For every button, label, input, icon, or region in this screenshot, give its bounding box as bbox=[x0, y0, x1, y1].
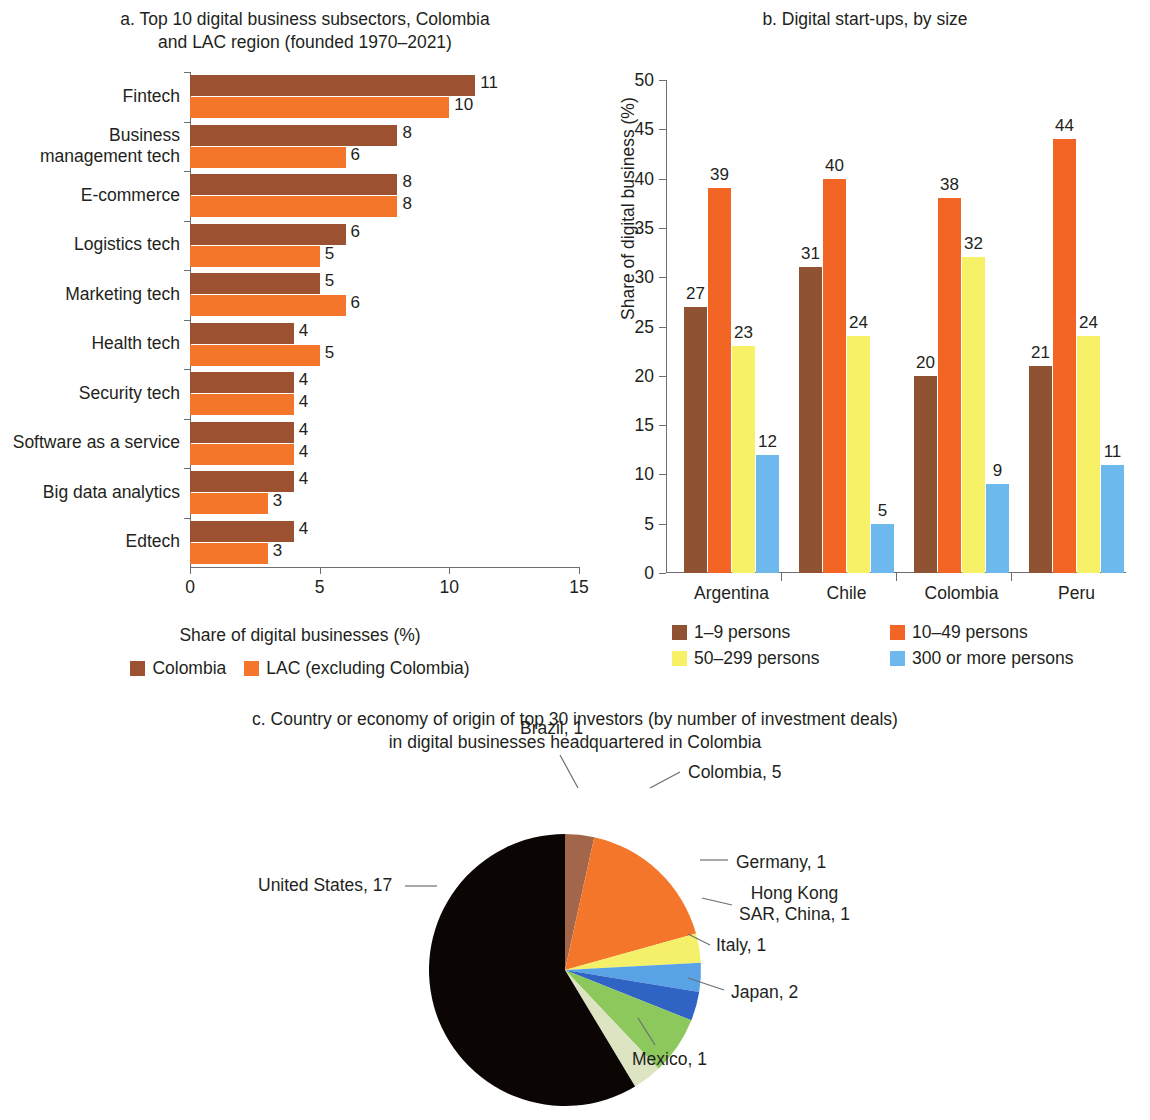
panel-a-legend-label: LAC (excluding Colombia) bbox=[266, 658, 469, 678]
panel-b-value-label: 5 bbox=[863, 501, 903, 521]
panel-a-bar-lac bbox=[190, 345, 320, 366]
panel-b-bar bbox=[962, 257, 985, 573]
panel-a-x-tick-label: 5 bbox=[315, 577, 325, 598]
panel-c-slice-label-group: Japan, 2 bbox=[731, 982, 798, 1003]
panel-a-value-label: 4 bbox=[299, 370, 308, 390]
panel-a-y-tick bbox=[184, 171, 190, 172]
panel-a-category-label: Fintech bbox=[0, 86, 180, 106]
panel-a-x-tick bbox=[449, 567, 450, 574]
panel-c-slice-label-group: Italy, 1 bbox=[716, 935, 766, 956]
panel-a-y-tick bbox=[184, 468, 190, 469]
panel-b-group-separator bbox=[896, 573, 897, 581]
panel-a-y-tick bbox=[184, 122, 190, 123]
panel-b-bar bbox=[914, 376, 937, 573]
panel-a-category-label-group: Businessmanagement tech bbox=[0, 125, 180, 166]
legend-swatch-icon bbox=[244, 661, 259, 676]
panel-a-category-label: Business bbox=[0, 125, 180, 145]
panel-b-bar bbox=[847, 336, 870, 573]
panel-c-slice-label: Hong Kong bbox=[739, 883, 850, 904]
panel-a-x-axis bbox=[190, 567, 579, 568]
panel-b-y-tick-label: 5 bbox=[644, 513, 654, 534]
panel-b-group-separator bbox=[781, 573, 782, 581]
panel-a-y-tick bbox=[184, 320, 190, 321]
panel-b-legend-label: 50–299 persons bbox=[694, 648, 820, 668]
panel-a-legend-item[interactable]: LAC (excluding Colombia) bbox=[244, 658, 469, 679]
panel-a-axis-title: Share of digital businesses (%) bbox=[0, 625, 600, 646]
panel-c-slice-label: Mexico, 1 bbox=[632, 1049, 707, 1070]
panel-b-y-tick-label: 0 bbox=[644, 563, 654, 584]
panel-a-legend-label: Colombia bbox=[152, 658, 226, 678]
panel-c-slice-label: Germany, 1 bbox=[736, 852, 826, 873]
panel-a-value-label: 10 bbox=[454, 95, 473, 115]
legend-swatch-icon bbox=[890, 651, 905, 666]
panel-a-x-tick bbox=[190, 567, 191, 574]
panel-a-y-tick bbox=[184, 221, 190, 222]
panel-a-bar-colombia bbox=[190, 224, 346, 245]
panel-a-plot-area: 1110868865564544444343 FintechBusinessma… bbox=[190, 72, 579, 567]
panel-a-bar-colombia bbox=[190, 273, 320, 294]
panel-c-slice-label: Brazil, 1 bbox=[520, 718, 583, 739]
panel-a-value-label: 4 bbox=[299, 519, 308, 539]
panel-a-category-label-group: Logistics tech bbox=[0, 234, 180, 254]
panel-a-value-label: 5 bbox=[325, 271, 334, 291]
panel-b-y-tick bbox=[659, 179, 666, 180]
panel-c-leader-line bbox=[560, 755, 578, 788]
panel-a-bar-lac bbox=[190, 543, 268, 564]
panel-b-y-tick bbox=[659, 573, 666, 574]
panel-b-legend-item[interactable]: 50–299 persons bbox=[672, 648, 890, 669]
panel-a-value-label: 6 bbox=[351, 222, 360, 242]
panel-b-y-axis-title: Share of digital business (%) bbox=[618, 97, 639, 320]
panel-a-x-tick-label: 0 bbox=[185, 577, 195, 598]
panel-a-y-tick bbox=[184, 270, 190, 271]
panel-a-value-label: 5 bbox=[325, 244, 334, 264]
panel-b-legend-item[interactable]: 1–9 persons bbox=[672, 622, 890, 643]
legend-swatch-icon bbox=[130, 661, 145, 676]
panel-a-category-label-group: Security tech bbox=[0, 383, 180, 403]
panel-b-bar bbox=[799, 267, 822, 573]
panel-b-value-label: 11 bbox=[1093, 442, 1133, 462]
panel-b-group-separator bbox=[1011, 573, 1012, 581]
panel-a-value-label: 4 bbox=[299, 442, 308, 462]
panel-c-slice-label: Italy, 1 bbox=[716, 935, 766, 956]
panel-a-title: a. Top 10 digital business subsectors, C… bbox=[60, 8, 550, 54]
panel-c-leader-line bbox=[702, 898, 732, 905]
panel-b-plot-area: 05101520253035404550 2739231231402452038… bbox=[666, 80, 1126, 573]
panel-b-legend-label: 300 or more persons bbox=[912, 648, 1073, 668]
panel-a-category-label: Software as a service bbox=[0, 432, 180, 452]
panel-b-bar bbox=[1053, 139, 1076, 573]
panel-b-value-label: 44 bbox=[1045, 116, 1085, 136]
panel-a-value-label: 8 bbox=[402, 194, 411, 214]
panel-a-y-tick bbox=[184, 72, 190, 73]
panel-c-slice-label: United States, 17 bbox=[258, 875, 392, 896]
panel-a-category-label: Big data analytics bbox=[0, 482, 180, 502]
panel-a-category-label-group: Health tech bbox=[0, 333, 180, 353]
panel-a-category-label-group: Big data analytics bbox=[0, 482, 180, 502]
legend-swatch-icon bbox=[672, 625, 687, 640]
panel-b-bar bbox=[684, 307, 707, 573]
panel-c-slice-label: SAR, China, 1 bbox=[739, 904, 850, 925]
panel-b-y-tick bbox=[659, 376, 666, 377]
panel-a-legend: ColombiaLAC (excluding Colombia) bbox=[0, 657, 600, 679]
panel-b-value-label: 9 bbox=[978, 461, 1018, 481]
panel-a-bar-lac bbox=[190, 493, 268, 514]
panel-b-bar bbox=[938, 198, 961, 573]
panel-b-y-axis bbox=[666, 80, 667, 573]
panel-a-bar-colombia bbox=[190, 323, 294, 344]
panel-a-value-label: 3 bbox=[273, 541, 282, 561]
panel-b-bar bbox=[708, 188, 731, 573]
panel-b-bar-chart: b. Digital start-ups, by size 0510152025… bbox=[580, 0, 1150, 700]
panel-b-legend-item[interactable]: 10–49 persons bbox=[890, 622, 1108, 643]
panel-b-legend-item[interactable]: 300 or more persons bbox=[890, 648, 1108, 669]
panel-a-bar-colombia bbox=[190, 125, 397, 146]
legend-swatch-icon bbox=[890, 625, 905, 640]
panel-b-value-label: 24 bbox=[1069, 313, 1109, 333]
panel-b-legend-label: 10–49 persons bbox=[912, 622, 1028, 642]
panel-a-category-label: E-commerce bbox=[0, 185, 180, 205]
panel-a-value-label: 3 bbox=[273, 491, 282, 511]
panel-b-legend-row: 1–9 persons10–49 persons bbox=[640, 622, 1140, 643]
panel-a-category-label: Marketing tech bbox=[0, 284, 180, 304]
panel-a-legend-item[interactable]: Colombia bbox=[130, 658, 226, 679]
panel-b-y-tick-label: 15 bbox=[635, 415, 654, 436]
panel-c-slice-label-group: United States, 17 bbox=[258, 875, 392, 896]
panel-a-bar-colombia bbox=[190, 75, 475, 96]
